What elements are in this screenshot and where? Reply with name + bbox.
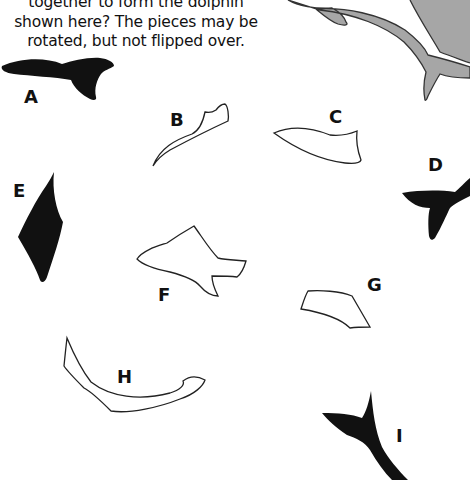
piece-i-label: I — [396, 427, 403, 445]
piece-h-shape[interactable] — [64, 338, 205, 412]
dolphin-target-shape — [288, 0, 470, 100]
piece-h-label: H — [117, 368, 132, 386]
piece-f-label: F — [158, 286, 170, 304]
piece-c-label: C — [329, 108, 342, 126]
piece-a-label: A — [24, 88, 38, 106]
piece-d-shape[interactable] — [402, 178, 470, 240]
piece-c-shape[interactable] — [274, 128, 361, 163]
piece-b-label: B — [170, 111, 184, 129]
piece-f-shape[interactable] — [137, 226, 246, 296]
piece-g-shape[interactable] — [301, 291, 370, 328]
piece-g-label: G — [367, 276, 382, 294]
puzzle-canvas — [0, 0, 470, 480]
piece-e-label: E — [13, 182, 25, 200]
piece-a-shape[interactable] — [2, 58, 114, 100]
piece-d-label: D — [428, 156, 443, 174]
piece-b-shape[interactable] — [153, 104, 228, 166]
